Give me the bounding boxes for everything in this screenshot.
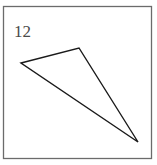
figure-number-label: 12: [14, 22, 31, 41]
figure-panel: 12: [0, 0, 157, 165]
triangle-shape: [21, 48, 138, 142]
figure-canvas: 12: [0, 0, 157, 165]
